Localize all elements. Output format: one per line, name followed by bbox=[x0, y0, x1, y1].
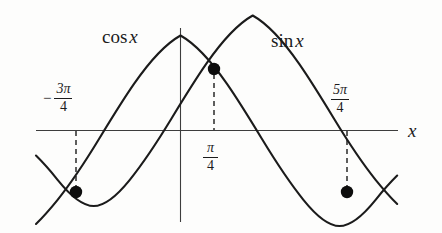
fraction-middle-numerator: π bbox=[205, 141, 216, 157]
fraction-right: 5π 4 bbox=[331, 83, 349, 116]
cosine-variable: x bbox=[127, 26, 137, 47]
fraction-left: 3π 4 bbox=[54, 82, 72, 115]
fraction-middle-denominator: 4 bbox=[205, 158, 216, 174]
tick-label-five-pi-over-four: 5π 4 bbox=[331, 83, 349, 116]
tick-label-pi-over-four: π 4 bbox=[203, 141, 218, 174]
fraction-left-denominator: 4 bbox=[58, 99, 69, 115]
sine-variable: x bbox=[293, 30, 303, 51]
cosine-curve-label: cosx bbox=[102, 27, 138, 46]
fraction-left-numerator: 3π bbox=[54, 82, 72, 98]
sine-function-name: sin bbox=[271, 30, 293, 51]
trig-figure: cosx sinx − 3π 4 π 4 5π 4 x bbox=[0, 0, 442, 233]
sine-curve-label: sinx bbox=[271, 31, 304, 50]
tick-label-minus-three-pi-over-four: − 3π 4 bbox=[43, 82, 72, 115]
x-axis-label: x bbox=[408, 121, 416, 140]
intersection-dot-right bbox=[341, 186, 353, 198]
fraction-right-numerator: 5π bbox=[331, 83, 349, 99]
intersection-dot-left bbox=[70, 186, 82, 198]
plot-canvas bbox=[0, 0, 442, 233]
fraction-right-denominator: 4 bbox=[335, 100, 346, 116]
cosine-function-name: cos bbox=[102, 26, 127, 47]
intersection-dot-middle bbox=[208, 63, 220, 75]
minus-sign: − bbox=[43, 91, 54, 106]
fraction-middle: π 4 bbox=[203, 141, 218, 174]
